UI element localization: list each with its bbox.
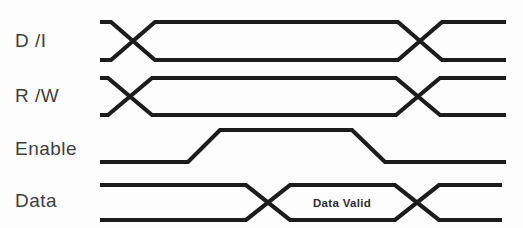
waveform-rw (100, 78, 506, 115)
waveform-di-path (100, 22, 506, 60)
waveform-canvas: Data Valid (0, 0, 523, 228)
waveform-data-path (100, 185, 502, 220)
waveform-data: Data Valid (100, 185, 502, 220)
waveform-enable (100, 130, 506, 162)
waveform-enable-path (100, 130, 506, 162)
timing-diagram: D /I R /W Enable Data Data Valid (0, 0, 523, 228)
waveform-di (100, 22, 506, 60)
waveform-rw-path (100, 78, 506, 115)
data-valid-annotation: Data Valid (313, 197, 371, 209)
